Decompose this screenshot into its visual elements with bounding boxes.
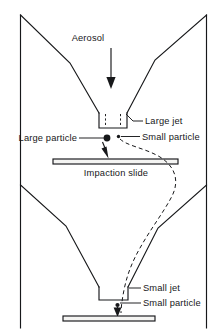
small-particle-lower-label: Small particle (143, 298, 201, 308)
impaction-slide-lower (63, 316, 155, 321)
small-particle-upper-label: Small particle (142, 132, 200, 142)
impactor-figure: Aerosol Large jet Small particle Large p… (0, 0, 223, 335)
impactor-diagram-canvas: Aerosol Large jet Small particle Large p… (0, 0, 223, 335)
upper-funnel-right-slope (127, 15, 207, 113)
small-particle-dot-upper (117, 135, 120, 138)
aerosol-arrow-head (106, 77, 115, 89)
lower-funnel-right-slope (128, 185, 207, 287)
small-particle-dot-lower (115, 303, 119, 307)
impaction-slide-upper (53, 159, 178, 164)
lower-funnel-left-slope (21, 185, 100, 287)
large-particle-label: Large particle (19, 133, 77, 143)
large-jet-throat (99, 113, 127, 128)
large-particle-dot (104, 135, 111, 142)
impaction-slide-label: Impaction slide (84, 168, 148, 178)
aerosol-arrow-group (106, 48, 115, 89)
stage-two-particles (63, 303, 155, 321)
large-jet-label: Large jet (145, 116, 183, 126)
small-jet-label: Small jet (143, 283, 180, 293)
large-jet-leader (126, 114, 143, 121)
large-particle-impaction-head (102, 147, 109, 159)
aerosol-label: Aerosol (72, 33, 105, 43)
upper-funnel-left-slope (21, 15, 100, 113)
leader-lines-group (79, 114, 143, 303)
